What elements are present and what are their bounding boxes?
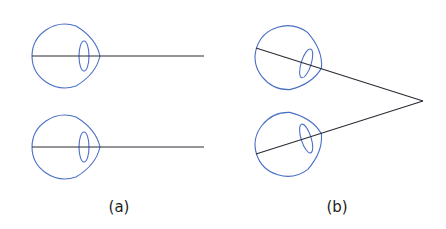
panel-a — [32, 24, 204, 179]
panel-b — [247, 17, 423, 184]
panel-label-a: (a) — [109, 198, 130, 216]
sight-line-top-b — [256, 48, 423, 101]
figure-canvas: (a) (b) — [0, 0, 446, 229]
panel-label-b: (b) — [326, 198, 347, 216]
eye-diagram — [0, 0, 446, 229]
sight-line-bottom-b — [256, 101, 423, 154]
